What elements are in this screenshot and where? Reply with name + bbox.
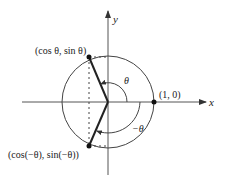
x-axis-label: x: [208, 96, 214, 108]
point-neg-theta-label: (cos(−θ), sin(−θ)): [8, 149, 79, 161]
neg-theta-angle-label: −θ: [132, 123, 144, 134]
y-axis-label: y: [112, 13, 118, 25]
diagram-svg: y x (cos θ, sin θ) (cos(−θ), sin(−θ)) (1…: [0, 0, 226, 178]
point-theta-label: (cos θ, sin θ): [35, 45, 86, 57]
theta-angle-label: θ: [124, 75, 129, 86]
radius-theta: [89, 57, 108, 102]
unit-circle-diagram: y x (cos θ, sin θ) (cos(−θ), sin(−θ)) (1…: [0, 0, 226, 178]
point-one-zero-label: (1, 0): [159, 89, 181, 101]
radius-neg-theta: [89, 102, 108, 146]
point-theta: [87, 55, 92, 60]
point-neg-theta: [87, 144, 92, 149]
point-one-zero: [152, 100, 157, 105]
